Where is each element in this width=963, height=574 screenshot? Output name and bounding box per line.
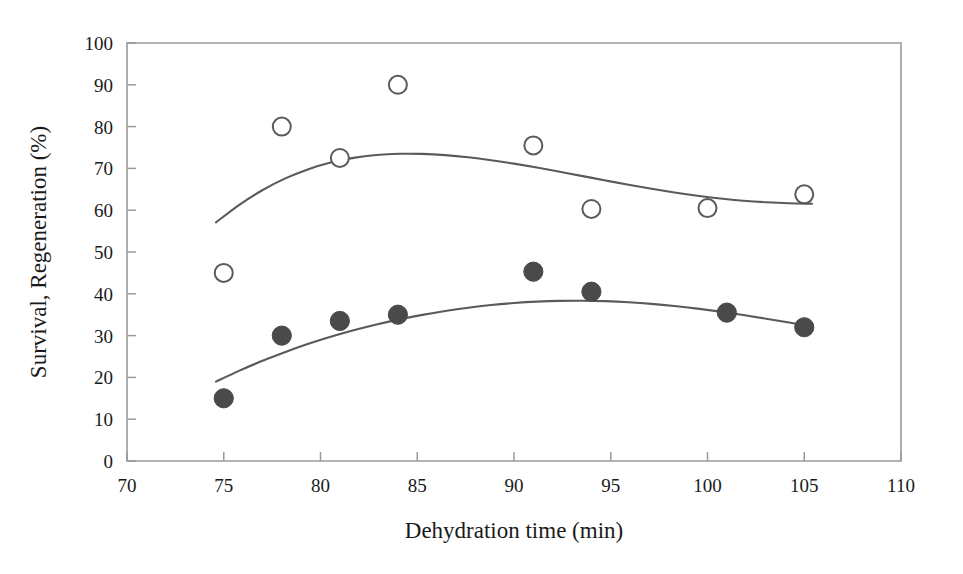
data-point-regeneration (795, 185, 813, 203)
data-markers (214, 76, 814, 408)
y-axis-tick-labels: 0102030405060708090100 (85, 33, 114, 472)
data-point-survival (717, 303, 736, 322)
data-point-survival (214, 389, 233, 408)
x-tick-label: 90 (505, 475, 524, 496)
y-tick-label: 50 (94, 242, 113, 263)
y-axis-ticks (127, 43, 136, 461)
y-tick-label: 0 (104, 451, 114, 472)
plot-frame (127, 43, 901, 461)
x-axis-ticks (127, 452, 901, 461)
data-point-survival (524, 262, 543, 281)
x-axis-title: Dehydration time (min) (405, 518, 623, 543)
x-tick-label: 95 (601, 475, 620, 496)
data-point-regeneration (215, 264, 233, 282)
data-point-regeneration (389, 76, 407, 94)
y-tick-label: 80 (94, 117, 113, 138)
data-point-survival (272, 326, 291, 345)
x-tick-label: 110 (887, 475, 915, 496)
trend-curve-regeneration (216, 154, 812, 223)
y-tick-label: 60 (94, 200, 113, 221)
y-tick-label: 40 (94, 284, 113, 305)
y-tick-label: 10 (94, 409, 113, 430)
x-axis-tick-labels: 707580859095100105110 (118, 475, 915, 496)
y-tick-label: 90 (94, 75, 113, 96)
data-point-regeneration (273, 118, 291, 136)
data-point-regeneration (331, 149, 349, 167)
x-tick-label: 70 (118, 475, 137, 496)
y-tick-label: 70 (94, 158, 113, 179)
y-axis-title: Survival, Regeneration (%) (26, 126, 51, 378)
data-point-survival (582, 282, 601, 301)
data-point-survival (388, 305, 407, 324)
data-point-survival (330, 311, 349, 330)
y-tick-label: 20 (94, 367, 113, 388)
data-point-regeneration (582, 200, 600, 218)
data-point-regeneration (699, 199, 717, 217)
trend-curves (216, 154, 812, 382)
x-tick-label: 100 (693, 475, 722, 496)
data-point-survival (795, 318, 814, 337)
x-tick-label: 75 (214, 475, 233, 496)
x-tick-label: 105 (790, 475, 819, 496)
chart-svg: 0102030405060708090100 70758085909510010… (0, 0, 963, 574)
chart-figure: 0102030405060708090100 70758085909510010… (0, 0, 963, 574)
y-tick-label: 30 (94, 326, 113, 347)
data-point-regeneration (524, 136, 542, 154)
x-tick-label: 80 (311, 475, 330, 496)
y-tick-label: 100 (85, 33, 114, 54)
x-tick-label: 85 (408, 475, 427, 496)
